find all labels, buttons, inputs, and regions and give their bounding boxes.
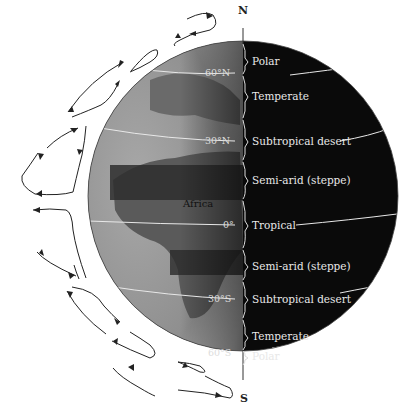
zone-subtropical-desert-north: Subtropical desert (252, 135, 351, 147)
zone-semi-arid-south: Semi-arid (steppe) (252, 260, 351, 272)
north-pole-label: N (238, 4, 248, 17)
latitude-0: 0° (223, 219, 234, 230)
latitude-60n: 60°N (205, 67, 230, 78)
zone-subtropical-desert-south: Subtropical desert (252, 293, 351, 305)
zone-polar-south: Polar (252, 350, 280, 362)
climate-globe-figure: N S Africa 60°N 30°N 0° 30°S 60°S Polar … (0, 0, 409, 407)
latitude-30n: 30°N (205, 135, 230, 146)
zone-polar-north: Polar (252, 55, 280, 67)
zone-temperate-south: Temperate (252, 330, 309, 342)
zone-temperate-north: Temperate (252, 90, 309, 102)
zone-tropical: Tropical (252, 219, 296, 231)
south-pole-label: S (240, 392, 248, 405)
africa-label: Africa (183, 198, 213, 209)
zone-semi-arid-north: Semi-arid (steppe) (252, 174, 351, 186)
latitude-60s: 60°S (208, 347, 231, 358)
latitude-30s: 30°S (208, 293, 231, 304)
